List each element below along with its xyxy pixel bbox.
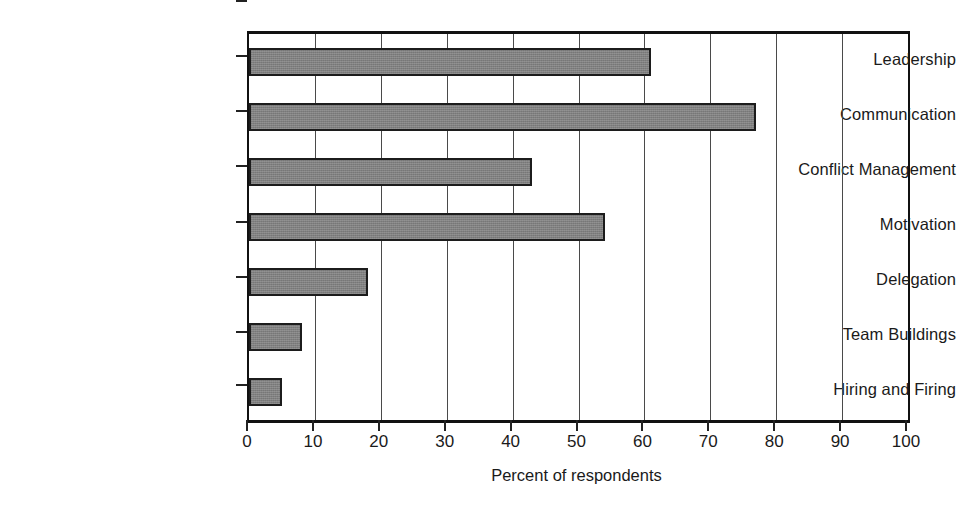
x-axis-tick-30 [444, 420, 446, 431]
bar-leadership [249, 48, 651, 76]
plot-area [247, 31, 910, 423]
x-axis-tick-label-50: 50 [567, 432, 586, 452]
bar-series [249, 34, 908, 420]
bar-team-buildings [249, 323, 302, 351]
x-axis-tick-label-20: 20 [369, 432, 388, 452]
y-axis-tick [236, 0, 247, 2]
x-axis-tick-labels: 0102030405060708090100 [247, 432, 906, 456]
x-axis-tick-60 [641, 420, 643, 431]
bar-band [249, 310, 908, 365]
bar-communication [249, 103, 756, 131]
bar-band [249, 89, 908, 144]
bar-band [249, 34, 908, 89]
y-axis-tick [236, 276, 247, 278]
y-axis-tick [236, 165, 247, 167]
x-axis-tick-90 [839, 420, 841, 431]
x-axis-tick-label-60: 60 [633, 432, 652, 452]
x-axis-tick-50 [576, 420, 578, 431]
bar-band [249, 199, 908, 254]
y-axis-tick [236, 384, 247, 386]
bar-chart-figure: 0102030405060708090100 Percent of respon… [0, 0, 974, 511]
x-axis-tick-label-0: 0 [242, 432, 251, 452]
x-axis-tick-label-30: 30 [435, 432, 454, 452]
x-axis-tick-40 [510, 420, 512, 431]
x-axis-tick-0 [246, 420, 248, 431]
bar-band [249, 144, 908, 199]
y-axis-tick [236, 331, 247, 333]
x-axis-title: Percent of respondents [247, 466, 906, 485]
x-axis-tick-label-100: 100 [892, 432, 920, 452]
y-axis [0, 0, 247, 386]
x-axis-tick-80 [773, 420, 775, 431]
x-axis-tick-label-10: 10 [303, 432, 322, 452]
x-axis-tick-10 [312, 420, 314, 431]
bar-conflict-management [249, 158, 532, 186]
bar-band [249, 255, 908, 310]
x-axis-tick-label-40: 40 [501, 432, 520, 452]
x-axis-tick-label-70: 70 [699, 432, 718, 452]
x-axis-tick-20 [378, 420, 380, 431]
bar-hiring-and-firing [249, 378, 282, 406]
y-axis-tick [236, 55, 247, 57]
x-axis-tick-label-80: 80 [765, 432, 784, 452]
bar-motivation [249, 213, 605, 241]
x-axis-tick-100 [905, 420, 907, 431]
y-axis-tick [236, 110, 247, 112]
x-axis-tick-70 [707, 420, 709, 431]
bar-band [249, 365, 908, 420]
x-axis-tick-label-90: 90 [831, 432, 850, 452]
bar-delegation [249, 268, 368, 296]
y-axis-tick [236, 221, 247, 223]
